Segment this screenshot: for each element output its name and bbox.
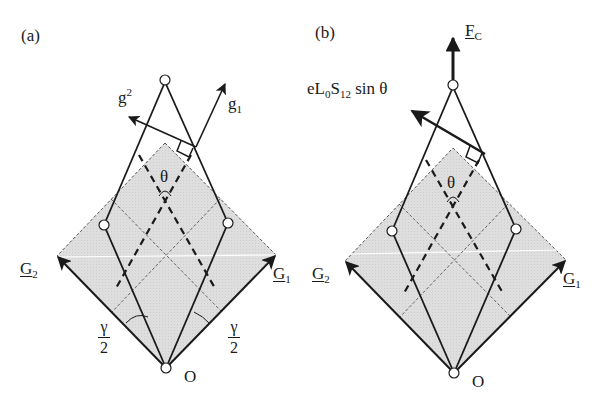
g-lower-base: g — [228, 94, 237, 113]
frac-num: γ — [230, 319, 237, 335]
theta-label: θ — [447, 174, 455, 191]
vector-G1-label: G1 — [563, 270, 581, 287]
G1-base: G — [563, 269, 575, 288]
half-gamma-left-label: γ2 — [98, 318, 110, 356]
origin-label: O — [472, 373, 484, 390]
G2-sub: 2 — [32, 268, 38, 280]
right-angle-marker — [177, 141, 193, 157]
G1-sub: 1 — [285, 273, 291, 285]
g-lower-sub: 1 — [237, 103, 243, 115]
half-gamma-right-label: γ2 — [228, 318, 240, 356]
panel-a — [57, 75, 276, 373]
G1-base: G — [273, 264, 285, 283]
vector-G1-label: G1 — [273, 265, 291, 282]
moment-e: eL — [307, 79, 325, 98]
moment-tail: sin θ — [351, 79, 387, 98]
Fc-sub: C — [474, 30, 481, 42]
g-upper-sup: 2 — [127, 86, 133, 98]
vector-g-lower — [196, 84, 225, 147]
figure-canvas — [0, 0, 603, 409]
frac-den: 2 — [230, 340, 238, 356]
frac-den: 2 — [100, 340, 108, 356]
force-Fc-label: FC — [465, 22, 482, 39]
G2-base: G — [312, 264, 324, 283]
moment-label: eL0S12 sin θ — [307, 80, 387, 97]
g-upper-base: g — [118, 88, 127, 107]
vector-g-upper-label: g2 — [118, 89, 132, 106]
vector-G2-label: G2 — [20, 260, 38, 277]
G1-sub: 1 — [575, 278, 581, 290]
origin-label: O — [184, 368, 196, 385]
vector-G2-label: G2 — [312, 265, 330, 282]
moment-sub12: 12 — [340, 88, 351, 100]
panel-a-label: (a) — [21, 27, 40, 44]
panel-b-label: (b) — [315, 24, 335, 41]
moment-S: S — [330, 79, 339, 98]
shaded-region — [345, 148, 566, 373]
G2-base: G — [20, 259, 32, 278]
vector-g-lower-label: g1 — [228, 95, 242, 112]
frac-num: γ — [100, 319, 107, 335]
theta-label: θ — [160, 168, 168, 185]
moment-sub0: 0 — [325, 88, 331, 100]
G2-sub: 2 — [324, 273, 330, 285]
